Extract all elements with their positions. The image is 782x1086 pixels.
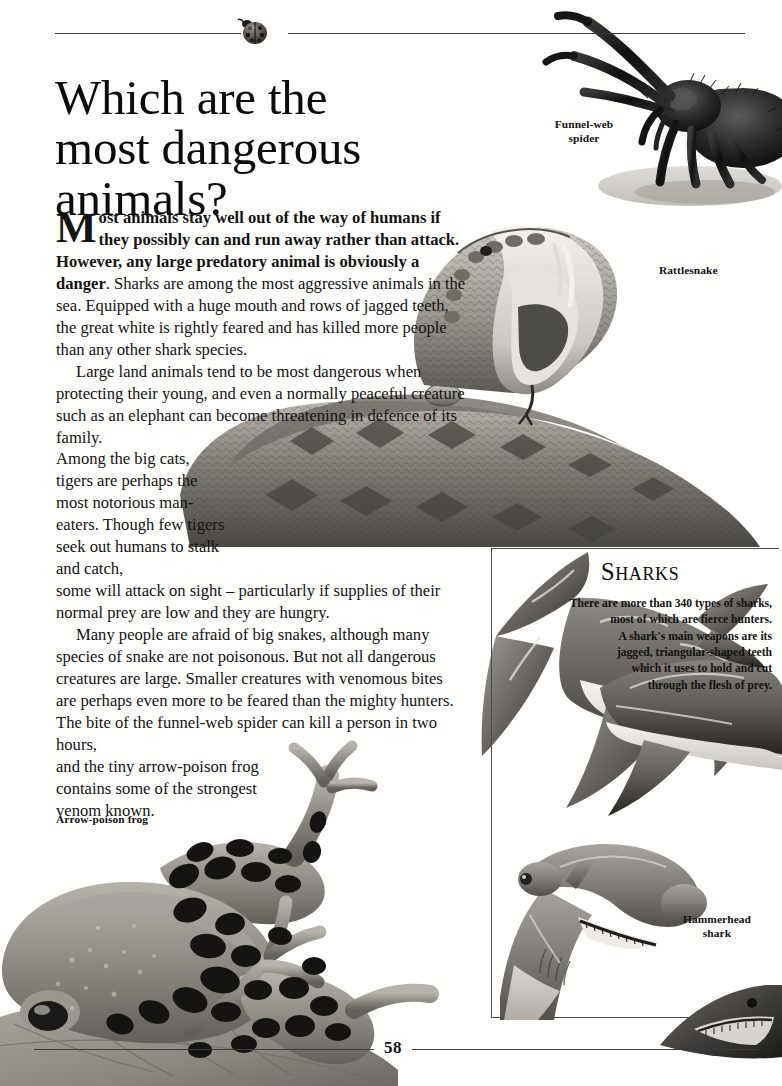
sharks-panel-title: SHARKS [540, 558, 740, 586]
shark-snout-illustration [660, 985, 782, 1086]
body-paragraph-2a-text: Large land animals tend to be most dange… [56, 362, 465, 447]
body-paragraph-2a: Large land animals tend to be most dange… [56, 361, 466, 449]
sharks-text-line: There are more than 340 types of sharks, [500, 596, 772, 612]
page-number: 58 [374, 1038, 412, 1058]
caption-line: spider [528, 131, 640, 145]
article-body: Most animals stay well out of the way of… [56, 207, 466, 822]
body-paragraph-1-rest: . Sharks are among the most aggressive a… [56, 274, 465, 359]
body-paragraph-1: Most animals stay well out of the way of… [56, 207, 466, 361]
body-paragraph-2-narrow-text: Among the big cats, tigers are perhaps t… [56, 449, 224, 578]
page-title-line-1: Which are the [55, 73, 475, 123]
page-title-line-2: most dangerous [55, 123, 475, 173]
body-paragraph-2b-text: some will attack on sight – particularly… [56, 581, 440, 622]
caption-hammerhead-shark: Hammerhead shark [662, 912, 772, 941]
magazine-page: SHARKS There are more than 340 types of … [0, 0, 782, 1086]
sharks-title-rest: HARKS [615, 564, 679, 584]
sharks-panel-text: There are more than 340 types of sharks,… [500, 596, 772, 694]
body-paragraph-3a-text: Many people are afraid of big snakes, al… [56, 625, 454, 754]
caption-arrow-poison-frog: Arrow-poison frog [56, 812, 216, 826]
footer-rule-left [34, 1049, 374, 1050]
caption-line: shark [662, 926, 772, 940]
header-rule-right [288, 33, 745, 34]
ladybird-icon [239, 19, 269, 46]
caption-line: Funnel-web [528, 117, 640, 131]
sharks-text-line: through the flesh of prey. [500, 678, 772, 694]
page-title: Which are the most dangerous animals? [55, 73, 475, 224]
sharks-text-line: jagged, triangular-shaped teeth [500, 645, 772, 661]
sharks-text-line: A shark's main weapons are its [500, 629, 772, 645]
sharks-text-line: most of which are fierce hunters. [500, 612, 772, 628]
body-paragraph-2b: some will attack on sight – particularly… [56, 580, 466, 624]
caption-rattlesnake: Rattlesnake [659, 263, 759, 277]
body-paragraph-3a: Many people are afraid of big snakes, al… [56, 624, 466, 756]
header-rule-left [55, 33, 241, 34]
sharks-title-initial: S [601, 558, 616, 585]
footer-rule-right [412, 1049, 758, 1050]
body-paragraph-3-narrow-text: and the tiny arrow-poison frog contains … [56, 757, 259, 820]
body-paragraph-2-narrow: Among the big cats, tigers are perhaps t… [56, 448, 226, 580]
caption-line: Hammerhead [662, 912, 772, 926]
drop-cap: M [56, 209, 99, 245]
sharks-text-line: which it uses to hold and cut [500, 661, 772, 677]
caption-funnel-web-spider: Funnel-web spider [528, 117, 640, 146]
